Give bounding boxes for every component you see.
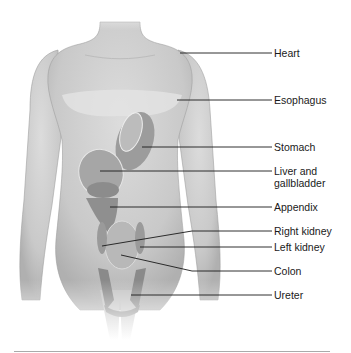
label-colon: Colon — [274, 265, 301, 277]
label-liver-line2: gallbladder — [274, 177, 325, 189]
right-kidney-organ — [97, 222, 107, 254]
bottom-divider — [14, 351, 330, 352]
label-liver-line1: Liver and — [274, 165, 317, 177]
label-right-kidney: Right kidney — [274, 225, 332, 237]
label-ureter: Ureter — [274, 289, 303, 301]
label-heart: Heart — [274, 47, 300, 59]
left-kidney-organ — [135, 222, 145, 254]
label-left-kidney: Left kidney — [274, 241, 325, 253]
label-appendix: Appendix — [274, 201, 318, 213]
label-stomach: Stomach — [274, 141, 315, 153]
label-esophagus: Esophagus — [274, 94, 327, 106]
